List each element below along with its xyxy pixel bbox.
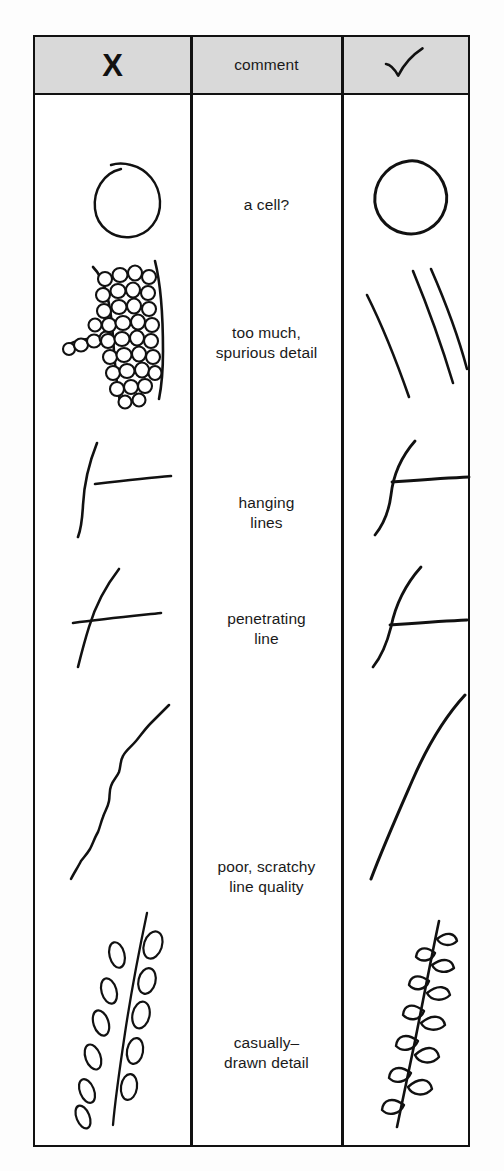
comment-row-5: poor, scratchy line quality <box>192 857 341 898</box>
comment-text-line2: line quality <box>229 878 303 895</box>
drawing-good-neat-detail <box>365 913 475 1133</box>
comment-row-1: a cell? <box>192 195 341 215</box>
comment-text-line2: spurious detail <box>216 344 317 361</box>
drawing-good-closed-circle <box>365 151 465 243</box>
column-bad-examples <box>35 95 190 1145</box>
header-cell-comment: comment <box>192 37 341 93</box>
comment-text-line1: poor, scratchy <box>218 858 316 875</box>
drawing-bad-penetrating-line <box>61 563 191 673</box>
comment-text-line2: lines <box>250 514 282 531</box>
header-label-comment: comment <box>234 56 298 74</box>
comment-text-line2: line <box>254 630 279 647</box>
header-cell-bad: X <box>35 37 190 93</box>
column-comments: a cell? too much, spurious detail hangin… <box>192 95 341 1145</box>
drawing-good-stopped-line <box>365 563 475 673</box>
drawing-bad-open-circle <box>83 147 193 247</box>
comment-text-line2: drawn detail <box>224 1054 309 1071</box>
drawing-good-joined-line <box>365 435 475 545</box>
drawing-bad-scratchy-line <box>57 687 197 887</box>
comment-text: a cell? <box>244 196 290 213</box>
x-mark-icon: X <box>102 50 123 81</box>
figure-comparison-table: X comment <box>33 35 470 1147</box>
comment-row-3: hanging lines <box>192 493 341 534</box>
check-mark-icon <box>382 46 428 84</box>
column-good-examples <box>343 95 467 1145</box>
comment-row-4: penetrating line <box>192 609 341 650</box>
comment-text-line1: casually– <box>234 1034 300 1051</box>
comment-row-6: casually– drawn detail <box>192 1033 341 1074</box>
comment-text-line1: too much, <box>232 324 301 341</box>
drawing-good-smooth-line <box>361 687 481 887</box>
comment-text-line1: hanging <box>239 494 295 511</box>
drawing-bad-casual-detail <box>69 903 189 1133</box>
table-header-row: X comment <box>35 37 468 95</box>
comment-text-line1: penetrating <box>227 610 306 627</box>
drawing-good-simple-curves <box>361 265 471 415</box>
header-cell-good <box>343 37 467 93</box>
drawing-bad-hanging-line <box>63 435 193 545</box>
drawing-bad-spurious-detail <box>59 253 199 413</box>
table-body: a cell? too much, spurious detail hangin… <box>35 95 468 1145</box>
comment-row-2: too much, spurious detail <box>192 323 341 364</box>
